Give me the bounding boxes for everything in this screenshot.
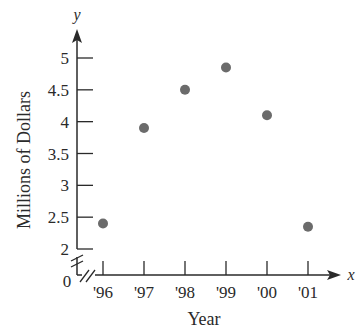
- data-point: [262, 110, 272, 120]
- y-tick-label: 5: [61, 49, 70, 68]
- y-tick-label: 4: [61, 113, 70, 132]
- x-tick-label: '00: [257, 283, 277, 302]
- data-point: [221, 63, 231, 73]
- y-tick-label: 4.5: [48, 81, 69, 100]
- y-axis: y: [71, 6, 83, 275]
- data-point: [139, 123, 149, 133]
- y-axis-variable: y: [71, 6, 81, 24]
- x-axis-label: Year: [187, 309, 220, 329]
- y-axis-label: Millions of Dollars: [14, 91, 34, 229]
- data-point: [98, 219, 108, 229]
- y-tick-label: 2: [61, 240, 70, 259]
- x-ticks: '96'97'98'99'00'01: [93, 261, 318, 302]
- x-tick-label: '99: [216, 283, 236, 302]
- data-point: [303, 222, 313, 232]
- y-ticks: 22.533.544.55: [48, 49, 93, 259]
- x-axis: x: [77, 266, 355, 283]
- x-axis-variable: x: [346, 266, 354, 283]
- y-tick-label: 2.5: [48, 208, 69, 227]
- x-tick-label: '01: [298, 283, 318, 302]
- y-tick-label: 3: [61, 176, 70, 195]
- origin-label: 0: [63, 272, 72, 291]
- x-tick-label: '98: [175, 283, 195, 302]
- x-tick-label: '96: [93, 283, 113, 302]
- x-tick-label: '97: [134, 283, 155, 302]
- data-points: [98, 63, 313, 232]
- data-point: [180, 85, 190, 95]
- y-tick-label: 3.5: [48, 145, 69, 164]
- scatter-chart: y x 0 22.533.544.55 '96'97'98'99'00'01 Y…: [0, 0, 363, 335]
